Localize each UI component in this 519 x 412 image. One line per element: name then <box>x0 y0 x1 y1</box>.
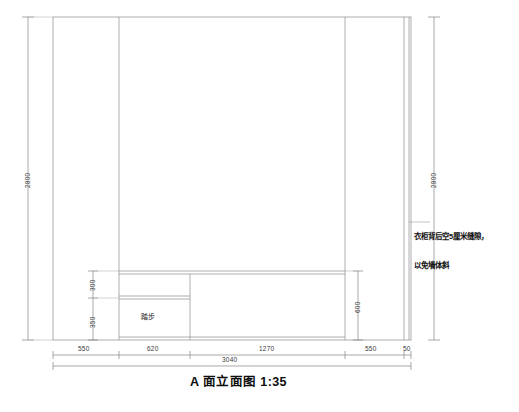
wardrobe-gap-note-line1: 衣柜背后空5厘米缝隙， <box>414 232 488 241</box>
cabinet-interior <box>119 271 345 340</box>
dim-label-1270: 1270 <box>259 345 274 353</box>
dimension-lines <box>22 17 440 370</box>
dim-label-350: 350 <box>89 317 97 328</box>
dim-label-620: 620 <box>147 345 158 353</box>
dim-label-550-left: 550 <box>78 345 89 353</box>
step-label: 踏步 <box>141 313 155 322</box>
dim-label-height-left: 2800 <box>24 173 32 188</box>
dim-label-3040: 3040 <box>222 356 237 364</box>
dim-label-300: 300 <box>89 280 97 291</box>
dim-label-550-right: 550 <box>365 345 376 353</box>
dim-label-height-right: 2800 <box>430 173 438 188</box>
wall-outline <box>53 17 411 340</box>
wardrobe-gap-note-line2: 以免墙体斜 <box>414 261 488 270</box>
wardrobe-body <box>119 17 409 340</box>
wall-outer-rect <box>53 17 411 340</box>
figure-title: A 面立面图 1:35 <box>190 375 287 391</box>
dim-label-600: 600 <box>354 302 362 313</box>
wardrobe-gap-note: 衣柜背后空5厘米缝隙， 以免墙体斜 <box>414 213 488 289</box>
elevation-drawing-page: 2800 2800 300 350 600 550 620 1270 550 5… <box>0 0 519 412</box>
dim-label-50: 50 <box>403 345 411 353</box>
